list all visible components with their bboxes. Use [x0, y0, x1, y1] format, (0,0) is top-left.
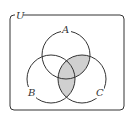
venn-diagram: U A B C	[0, 0, 128, 113]
set-a-label: A	[61, 24, 69, 35]
set-b-label: B	[27, 87, 35, 98]
set-c-label: C	[96, 87, 104, 98]
shaded-region	[27, 31, 90, 103]
universe-label: U	[16, 10, 25, 21]
